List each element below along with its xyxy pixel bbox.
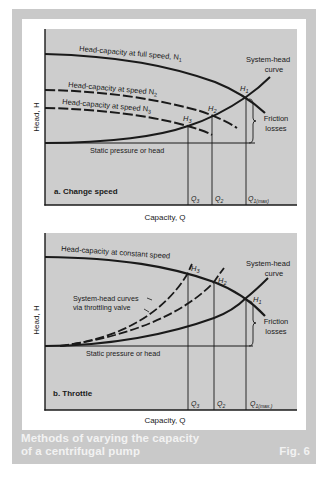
panel-title-a: a. Change speed [54,187,118,196]
label-throttle-1: System-head curves [73,294,139,303]
panel-b: Head-capacity at constant speed System-h… [32,233,297,425]
y-axis-label-a: Head, H [32,102,41,132]
label-static-b: Static pressure or head [86,349,160,358]
label-throttle-2: via throttling valve [73,303,131,312]
y-axis-label-b: Head, H [32,305,41,335]
label-system-head-b-1: System-head [246,259,290,268]
label-friction-b-1: Friction [264,317,289,326]
label-friction-b-2: losses [265,327,287,336]
label-static-a: Static pressure or head [90,146,164,155]
caption-line-1: Methods of varying the capacity [21,432,199,445]
caption-line-2: of a centrifugal pump [21,445,199,458]
figure-caption: Methods of varying the capacity of a cen… [21,432,199,458]
label-system-head-a-2: curve [265,65,283,74]
label-friction-a-2: losses [265,124,287,133]
panel-a: Head-capacity at full speed, N1 Head-cap… [32,29,297,222]
figure-number: Fig. 6 [279,445,310,458]
panel-title-b: b. Throttle [53,389,93,398]
x-axis-label-b: Capacity, Q [144,416,185,425]
diagram-canvas: Head-capacity at full speed, N1 Head-cap… [0,0,329,477]
label-system-head-a-1: System-head [246,55,290,64]
x-axis-label-a: Capacity, Q [144,213,185,222]
label-system-head-b-2: curve [265,269,283,278]
label-friction-a-1: Friction [264,114,289,123]
